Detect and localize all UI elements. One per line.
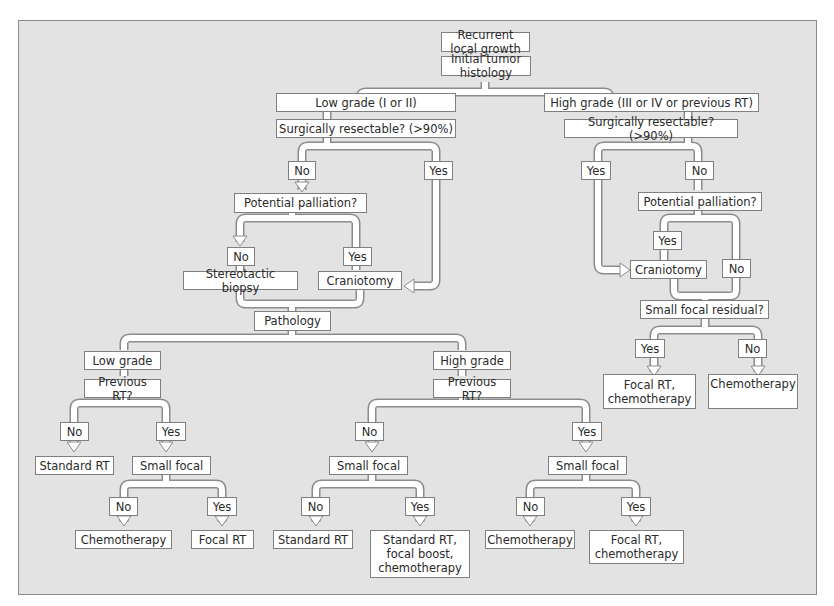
- node-residual-no: No: [738, 339, 767, 358]
- node-residual-yes: Yes: [635, 339, 665, 358]
- node-residual-yes-result: Focal RT, chemotherapy: [603, 374, 696, 409]
- node-high-palliation-no: No: [722, 259, 751, 278]
- node-high-craniotomy: Craniotomy: [630, 260, 707, 279]
- node-low-surgically-resectable: Surgically resectable? (>90%): [276, 119, 456, 138]
- arrow-down-icon: [159, 442, 173, 452]
- node-pathology-high-grade: High grade: [433, 351, 511, 370]
- node-residual-no-result: Chemotherapy: [708, 374, 798, 409]
- arrow-right-icon: [620, 263, 630, 277]
- node-high-prev-rt-yes: Yes: [572, 422, 602, 441]
- node-hsfn-standard-rt: Standard RT: [273, 530, 353, 549]
- node-low-small-focal: Small focal: [132, 456, 211, 475]
- node-low-focal-rt: Focal RT: [191, 530, 254, 549]
- node-low-chemotherapy: Chemotherapy: [75, 530, 172, 549]
- node-hsfy-focal-rt-chemo: Focal RT, chemotherapy: [589, 530, 684, 564]
- node-pathology-low-grade: Low grade: [84, 351, 161, 370]
- node-hsfn-yes: Yes: [405, 497, 435, 516]
- arrow-left-icon: [404, 279, 414, 293]
- node-high-resect-no: No: [685, 161, 714, 180]
- node-hsfn-no: No: [301, 497, 330, 516]
- node-low-resect-yes: Yes: [424, 161, 453, 180]
- node-low-potential-palliation: Potential palliation?: [234, 193, 367, 213]
- node-small-focal-residual: Small focal residual?: [640, 300, 769, 319]
- node-high-previous-rt: Previous RT?: [433, 379, 511, 398]
- node-stereotactic-biopsy: Stereotactic biopsy: [183, 271, 298, 290]
- node-hsfy-chemotherapy: Chemotherapy: [485, 530, 575, 549]
- node-low-grade-initial: Low grade (I or II): [276, 93, 456, 112]
- node-low-resect-no: No: [288, 161, 316, 180]
- node-low-small-focal-no: No: [109, 497, 138, 516]
- arrow-down-icon: [365, 442, 379, 452]
- arrow-down-icon: [579, 442, 593, 452]
- node-pathology: Pathology: [254, 311, 331, 331]
- node-hsfn-standard-rt-boost-chemo: Standard RT, focal boost, chemotherapy: [370, 530, 470, 578]
- node-high-resect-yes: Yes: [581, 161, 611, 180]
- arrow-down-icon: [629, 516, 643, 526]
- arrow-down-icon: [523, 516, 537, 526]
- node-initial-tumor-histology: Initial tumor histology: [441, 56, 531, 76]
- node-high-small-focal-no-branch: Small focal: [329, 456, 408, 475]
- node-low-previous-rt: Previous RT?: [84, 379, 161, 398]
- arrow-down-icon: [233, 236, 247, 246]
- node-hsfy-no: No: [516, 497, 545, 516]
- node-high-prev-rt-no: No: [355, 422, 384, 441]
- arrow-down-icon: [309, 516, 323, 526]
- node-low-prev-rt-yes: Yes: [156, 422, 186, 441]
- node-high-grade-initial: High grade (III or IV or previous RT): [544, 93, 759, 112]
- arrow-down-icon: [413, 516, 427, 526]
- node-hsfy-yes: Yes: [621, 497, 651, 516]
- node-high-potential-palliation: Potential palliation?: [638, 192, 762, 211]
- arrow-down-icon: [295, 182, 309, 192]
- node-low-palliation-no: No: [227, 247, 255, 266]
- node-low-standard-rt: Standard RT: [35, 456, 114, 475]
- node-high-surgically-resectable: Surgically resectable? (>90%): [564, 119, 738, 138]
- arrow-down-icon: [67, 442, 81, 452]
- node-low-craniotomy: Craniotomy: [318, 271, 402, 290]
- node-high-palliation-yes: Yes: [653, 231, 682, 250]
- arrow-down-icon: [215, 516, 229, 526]
- node-low-small-focal-yes: Yes: [207, 497, 237, 516]
- arrow-down-icon: [117, 516, 131, 526]
- node-recurrent-local-growth: Recurrent local growth: [441, 32, 530, 52]
- node-high-small-focal-yes-branch: Small focal: [548, 456, 627, 475]
- node-low-palliation-yes: Yes: [343, 247, 372, 266]
- node-low-prev-rt-no: No: [60, 422, 89, 441]
